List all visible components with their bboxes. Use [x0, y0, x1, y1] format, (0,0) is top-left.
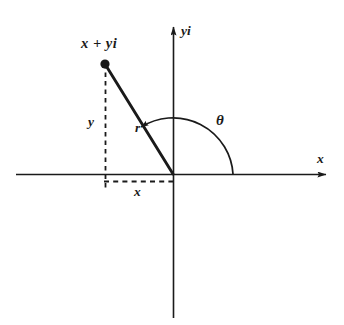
angle-label: θ: [216, 113, 224, 128]
horizontal-leg-label: x: [134, 185, 141, 199]
argand-diagram-figure: x + yi yi x y x r θ: [0, 0, 344, 325]
point-label: x + yi: [81, 36, 117, 51]
x-axis-label: x: [317, 152, 324, 166]
argand-diagram-canvas: [0, 0, 344, 325]
y-axis-label: yi: [181, 24, 191, 38]
complex-point-marker: [100, 59, 109, 68]
vertical-leg-label: y: [88, 115, 94, 129]
radius-label: r: [135, 121, 140, 135]
